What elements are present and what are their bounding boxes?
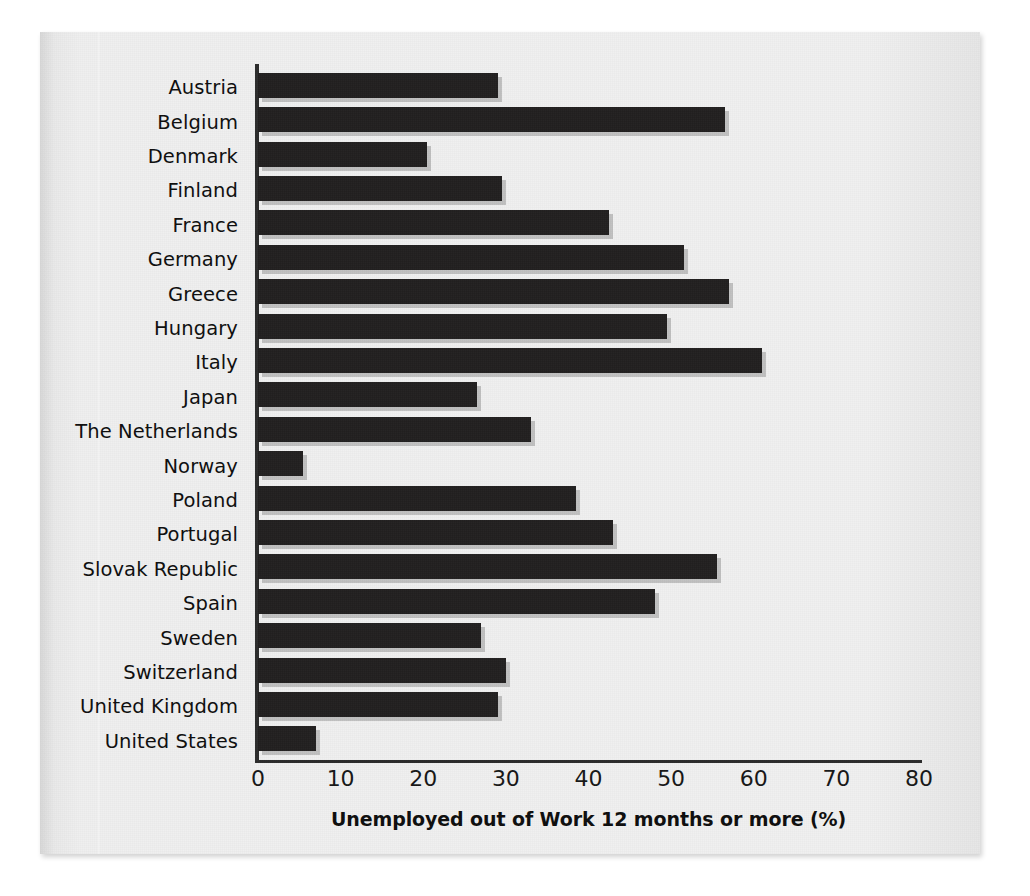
bar bbox=[258, 107, 725, 132]
scanned-page: AustriaBelgiumDenmarkFinlandFranceGerman… bbox=[40, 32, 980, 854]
bar-chart: AustriaBelgiumDenmarkFinlandFranceGerman… bbox=[40, 32, 980, 854]
category-label: United Kingdom bbox=[38, 697, 238, 717]
bar bbox=[258, 554, 717, 579]
bar bbox=[258, 486, 576, 511]
category-label: Switzerland bbox=[38, 663, 238, 683]
x-tick-label: 70 bbox=[822, 768, 850, 790]
x-axis-title: Unemployed out of Work 12 months or more… bbox=[258, 808, 919, 830]
category-label: Finland bbox=[38, 181, 238, 201]
bar bbox=[258, 451, 303, 476]
x-tick-label: 80 bbox=[905, 768, 933, 790]
bar bbox=[258, 314, 667, 339]
x-tick-label: 20 bbox=[409, 768, 437, 790]
category-label: Germany bbox=[38, 250, 238, 270]
bar bbox=[258, 589, 655, 614]
plot-area bbox=[258, 68, 919, 756]
category-label: Poland bbox=[38, 491, 238, 511]
category-label: Greece bbox=[38, 285, 238, 305]
category-label: Norway bbox=[38, 457, 238, 477]
category-label: Italy bbox=[38, 353, 238, 373]
bar bbox=[258, 279, 729, 304]
category-label: Belgium bbox=[38, 113, 238, 133]
category-label: United States bbox=[38, 732, 238, 752]
x-tick-label: 50 bbox=[657, 768, 685, 790]
bar bbox=[258, 210, 609, 235]
bar bbox=[258, 382, 477, 407]
bar bbox=[258, 176, 502, 201]
category-label: The Netherlands bbox=[38, 422, 238, 442]
category-label: Slovak Republic bbox=[38, 560, 238, 580]
x-tick-label: 30 bbox=[492, 768, 520, 790]
y-axis-line bbox=[255, 64, 259, 760]
category-label: Spain bbox=[38, 594, 238, 614]
x-axis-tick-labels: 01020304050607080 bbox=[258, 768, 919, 796]
x-tick-label: 10 bbox=[327, 768, 355, 790]
bar bbox=[258, 623, 481, 648]
bar bbox=[258, 348, 762, 373]
bar bbox=[258, 658, 506, 683]
bar bbox=[258, 692, 498, 717]
bar bbox=[258, 245, 684, 270]
category-label: France bbox=[38, 216, 238, 236]
bar bbox=[258, 73, 498, 98]
x-tick-label: 60 bbox=[740, 768, 768, 790]
x-tick-label: 40 bbox=[575, 768, 603, 790]
bar bbox=[258, 726, 316, 751]
category-label: Denmark bbox=[38, 147, 238, 167]
category-label: Portugal bbox=[38, 525, 238, 545]
category-label: Japan bbox=[38, 388, 238, 408]
x-tick-label: 0 bbox=[251, 768, 265, 790]
bar bbox=[258, 142, 427, 167]
bar bbox=[258, 520, 613, 545]
category-label: Austria bbox=[38, 78, 238, 98]
x-axis-line bbox=[255, 760, 922, 763]
category-label: Hungary bbox=[38, 319, 238, 339]
bar bbox=[258, 417, 531, 442]
category-axis-labels: AustriaBelgiumDenmarkFinlandFranceGerman… bbox=[40, 68, 248, 756]
category-label: Sweden bbox=[38, 629, 238, 649]
